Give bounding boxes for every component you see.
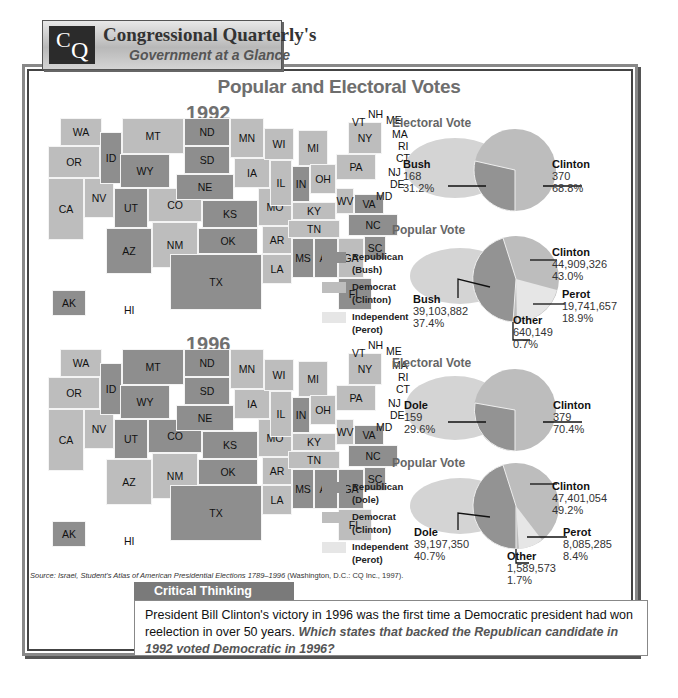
swatch-republican (322, 482, 346, 493)
state-nv: NV (84, 178, 114, 218)
state-nj: NJ (388, 166, 401, 178)
label-name: Bush (403, 158, 431, 170)
state-ut: UT (114, 419, 148, 459)
header-title: Congressional Quarterly's (103, 24, 316, 46)
cq-logo: C Q (49, 26, 95, 64)
label-percent: 0.7% (513, 338, 538, 350)
label-value: 168 (403, 170, 421, 182)
state-wy: WY (120, 385, 170, 419)
ev96-label-dem: Clinton37970.4% (553, 399, 591, 435)
state-la: LA (262, 254, 292, 284)
label-value: 44,909,326 (552, 258, 607, 270)
critical-thinking-box: President Bill Clinton's victory in 1996… (134, 600, 648, 656)
legend-label: Independent (352, 311, 408, 322)
legend-sub: (Dole) (352, 494, 379, 505)
label-percent: 18.9% (562, 312, 593, 324)
state-tx: TX (170, 254, 262, 310)
state-sd: SD (184, 377, 230, 405)
state-il: IL (270, 160, 292, 206)
state-oh: OH (310, 164, 336, 194)
pv92-label-rep: Bush39,103,88237.4% (413, 293, 468, 329)
state-wi: WI (264, 359, 294, 391)
label-percent: 29.6% (404, 423, 435, 435)
logo-q: Q (71, 37, 88, 64)
header-subtitle: Government at a Glance (129, 47, 290, 63)
legend-republican: Republican(Dole) (322, 480, 408, 506)
state-or: OR (48, 146, 100, 178)
state-ms: MS (292, 469, 314, 509)
legend-label: Democrat (352, 511, 396, 522)
state-ak: AK (52, 290, 86, 316)
label-percent: 8.4% (563, 550, 588, 562)
label-percent: 31.2% (403, 182, 434, 194)
swatch-democrat (322, 282, 346, 293)
label-value: 370 (552, 170, 570, 182)
legend-1996: Republican(Dole) Democrat(Clinton) Indep… (322, 480, 408, 570)
state-il: IL (270, 391, 292, 437)
state-ia: IA (234, 158, 270, 188)
label-name: Clinton (553, 399, 591, 411)
label-value: 640,149 (513, 326, 553, 338)
state-oh: OH (310, 395, 336, 425)
legend-sub: (Perot) (352, 554, 383, 565)
state-nc: NC (348, 214, 398, 236)
state-mt: MT (122, 349, 184, 385)
state-az: AZ (106, 228, 152, 274)
label-value: 39,103,882 (413, 305, 468, 317)
label-name: Perot (563, 526, 591, 538)
legend-sub: (Clinton) (352, 294, 391, 305)
label-value: 19,741,657 (562, 300, 617, 312)
state-wy: WY (120, 154, 170, 188)
pv96-label-other: Other1,589,5731.7% (507, 550, 556, 586)
legend-sub: (Bush) (352, 264, 382, 275)
label-percent: 68.8% (552, 182, 583, 194)
label-name: Dole (414, 526, 438, 538)
label-name: Clinton (552, 480, 590, 492)
state-ok: OK (198, 228, 258, 254)
legend-label: Independent (352, 541, 408, 552)
label-name: Clinton (552, 158, 590, 170)
state-nh: NH (368, 108, 383, 120)
state-mn: MN (230, 118, 264, 158)
legend-1992: Republican(Bush) Democrat(Clinton) Indep… (322, 250, 408, 340)
state-ky: KY (292, 202, 336, 220)
legend-republican: Republican(Bush) (322, 250, 408, 276)
label-name: Bush (413, 293, 441, 305)
legend-label: Democrat (352, 281, 396, 292)
state-ks: KS (202, 431, 258, 459)
state-ut: UT (114, 188, 148, 228)
state-ms: MS (292, 238, 314, 278)
state-ia: IA (234, 389, 270, 419)
state-vt: VT (352, 347, 365, 359)
state-ca: CA (48, 409, 84, 471)
label-name: Clinton (552, 246, 590, 258)
legend-independent: Independent(Perot) (322, 540, 408, 566)
state-in: IN (292, 397, 310, 433)
ev96-label-rep: Dole15929.6% (404, 399, 435, 435)
state-tn: TN (288, 451, 340, 469)
state-ok: OK (198, 459, 258, 485)
source-title: Student's Atlas of American Presidential… (80, 571, 285, 580)
state-nv: NV (84, 409, 114, 449)
state-wv: WV (336, 188, 354, 214)
state-wa: WA (60, 118, 102, 146)
state-or: OR (48, 377, 100, 409)
state-nd: ND (184, 349, 230, 377)
pv92-label-other: Other640,1490.7% (513, 314, 553, 350)
state-ks: KS (202, 200, 258, 228)
state-az: AZ (106, 459, 152, 505)
label-value: 1,589,573 (507, 562, 556, 574)
legend-sub: (Perot) (352, 324, 383, 335)
source-suffix: (Washington, D.C.: CQ Inc., 1997). (285, 571, 403, 580)
state-ky: KY (292, 433, 336, 451)
state-pa: PA (336, 385, 376, 411)
state-vt: VT (352, 116, 365, 128)
state-tx: TX (170, 485, 262, 541)
state-ne: NE (176, 174, 234, 200)
state-wv: WV (336, 419, 354, 445)
label-value: 159 (404, 411, 422, 423)
legend-label: Republican (352, 481, 403, 492)
label-name: Dole (404, 399, 428, 411)
state-nc: NC (348, 445, 398, 467)
label-name: Perot (562, 288, 590, 300)
